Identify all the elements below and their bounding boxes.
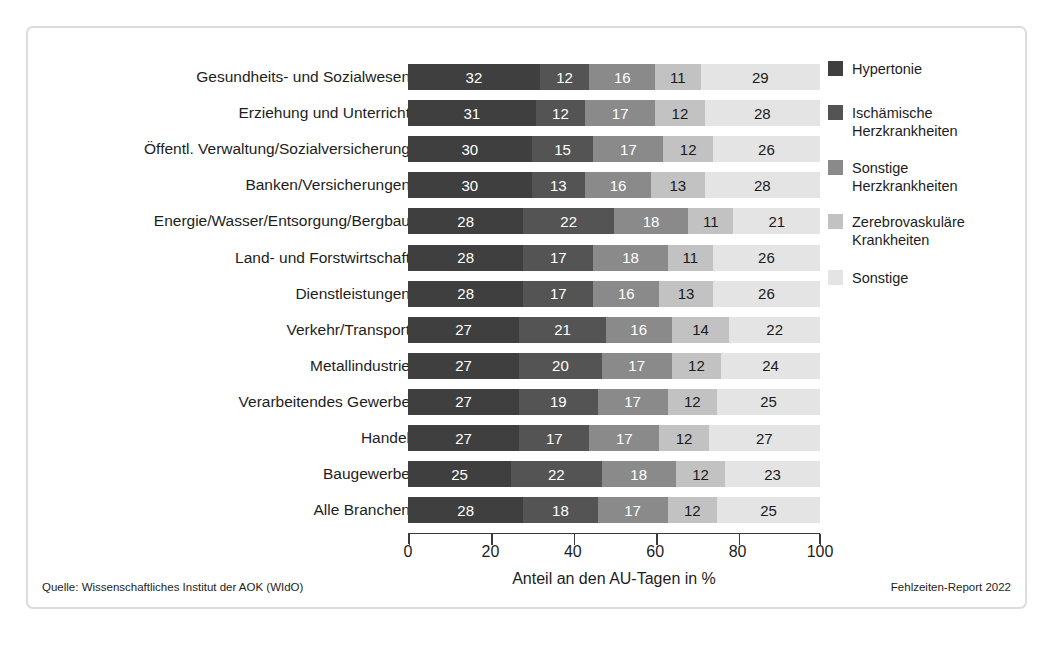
legend-item[interactable]: Sonstige Herzkrankheiten — [828, 160, 958, 195]
bar-segment: 17 — [598, 497, 668, 523]
bar-value-label: 17 — [624, 503, 641, 518]
legend-item[interactable]: Sonstige — [828, 270, 908, 288]
stacked-bar: 2721161422 — [408, 317, 820, 343]
bar-value-label: 28 — [457, 214, 474, 229]
bar-value-label: 20 — [552, 358, 569, 373]
bar-value-label: 18 — [630, 467, 647, 482]
category-label: Gesundheits- und Sozialwesen — [196, 64, 410, 90]
bar-value-label: 18 — [552, 503, 569, 518]
bar-value-label: 11 — [682, 250, 698, 265]
chart-row: Metallindustrie2720171224 — [28, 353, 1029, 379]
bar-segment: 29 — [701, 64, 820, 90]
bar-segment: 25 — [717, 389, 820, 415]
bar-segment: 11 — [688, 208, 733, 234]
source-note: Quelle: Wissenschaftliches Institut der … — [42, 581, 303, 593]
bar-segment: 20 — [519, 353, 601, 379]
bar-segment: 21 — [733, 208, 820, 234]
bar-segment: 18 — [593, 245, 667, 271]
bar-value-label: 18 — [643, 214, 660, 229]
bar-segment: 17 — [598, 389, 668, 415]
bar-value-label: 17 — [550, 250, 567, 265]
stacked-bar: 2720171224 — [408, 353, 820, 379]
bar-segment: 12 — [659, 425, 708, 451]
bar-segment: 27 — [408, 425, 519, 451]
bar-segment: 12 — [672, 353, 721, 379]
bar-value-label: 21 — [554, 322, 571, 337]
bar-segment: 12 — [676, 461, 725, 487]
legend-label: Ischämische Herzkrankheiten — [852, 105, 958, 140]
bar-value-label: 12 — [684, 394, 701, 409]
bar-value-label: 29 — [752, 70, 769, 85]
bar-value-label: 12 — [676, 431, 693, 446]
bar-value-label: 13 — [670, 178, 687, 193]
bar-segment: 14 — [672, 317, 730, 343]
bar-segment: 11 — [655, 64, 700, 90]
chart-row: Öffentl. Verwaltung/Sozialversicherung30… — [28, 136, 1029, 162]
bar-value-label: 31 — [464, 106, 481, 121]
bar-segment: 17 — [593, 136, 663, 162]
legend-swatch — [828, 105, 843, 120]
bar-value-label: 27 — [455, 431, 472, 446]
bar-segment: 23 — [725, 461, 820, 487]
legend-item[interactable]: Zerebrovaskuläre Krankheiten — [828, 214, 965, 249]
bar-value-label: 27 — [455, 322, 472, 337]
category-label: Verkehr/Transport — [287, 317, 410, 343]
stacked-bar: 2818171225 — [408, 497, 820, 523]
bar-segment: 25 — [408, 461, 511, 487]
chart-row: Verarbeitendes Gewerbe2719171225 — [28, 389, 1029, 415]
axis-tick-label: 0 — [404, 543, 413, 561]
bar-segment: 17 — [523, 245, 593, 271]
bar-value-label: 13 — [678, 286, 695, 301]
bar-segment: 16 — [606, 317, 672, 343]
bar-value-label: 27 — [455, 358, 472, 373]
bar-segment: 18 — [614, 208, 688, 234]
bar-segment: 13 — [651, 172, 705, 198]
stacked-bar: 2717171227 — [408, 425, 820, 451]
bar-segment: 28 — [408, 245, 523, 271]
bar-segment: 13 — [659, 281, 713, 307]
bar-value-label: 26 — [758, 250, 775, 265]
bar-value-label: 17 — [616, 431, 633, 446]
chart-row: Handel2717171227 — [28, 425, 1029, 451]
bar-value-label: 12 — [672, 106, 689, 121]
stacked-bar: 3015171226 — [408, 136, 820, 162]
bar-segment: 26 — [713, 245, 820, 271]
bar-segment: 17 — [602, 353, 672, 379]
stacked-bar: 2522181223 — [408, 461, 820, 487]
stacked-bar: 2822181121 — [408, 208, 820, 234]
bar-segment: 27 — [709, 425, 820, 451]
bar-value-label: 14 — [692, 322, 709, 337]
legend-swatch — [828, 214, 843, 229]
category-label: Energie/Wasser/Entsorgung/Bergbau — [154, 208, 410, 234]
bar-value-label: 30 — [461, 178, 478, 193]
bar-value-label: 16 — [610, 178, 627, 193]
bar-value-label: 17 — [624, 394, 641, 409]
bar-segment: 17 — [585, 100, 655, 126]
bar-segment: 17 — [523, 281, 593, 307]
x-axis-title: Anteil an den AU-Tagen in % — [408, 570, 820, 588]
bar-value-label: 12 — [692, 467, 709, 482]
bar-value-label: 30 — [461, 142, 478, 157]
axis-tick-label: 80 — [729, 543, 747, 561]
bar-value-label: 18 — [622, 250, 639, 265]
category-label: Metallindustrie — [310, 353, 410, 379]
bar-value-label: 16 — [630, 322, 647, 337]
bar-value-label: 22 — [548, 467, 565, 482]
chart-row: Verkehr/Transport2721161422 — [28, 317, 1029, 343]
bar-segment: 22 — [729, 317, 820, 343]
bar-value-label: 16 — [614, 70, 631, 85]
bar-segment: 17 — [519, 425, 589, 451]
stacked-bar: 2817161326 — [408, 281, 820, 307]
legend-item[interactable]: Ischämische Herzkrankheiten — [828, 105, 958, 140]
chart-row: Baugewerbe2522181223 — [28, 461, 1029, 487]
bar-value-label: 11 — [670, 70, 686, 85]
legend-item[interactable]: Hypertonie — [828, 61, 922, 79]
category-label: Baugewerbe — [323, 461, 410, 487]
axis-tick-label: 40 — [564, 543, 582, 561]
stacked-bar: 3112171228 — [408, 100, 820, 126]
bar-segment: 19 — [519, 389, 597, 415]
bar-value-label: 16 — [618, 286, 635, 301]
category-label: Banken/Versicherungen — [245, 172, 410, 198]
bar-value-label: 21 — [768, 214, 785, 229]
bar-segment: 31 — [408, 100, 536, 126]
